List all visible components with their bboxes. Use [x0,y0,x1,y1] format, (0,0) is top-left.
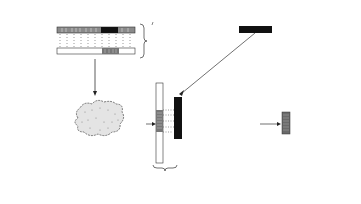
natural-hybrid-bonds [60,34,130,47]
synthetic-hybrid-brace [153,165,177,171]
diagram-canvas [0,0,361,204]
complementary-copy [282,112,290,134]
tumor-dna-strip [57,27,135,33]
labeled-mrna-strip [57,48,135,54]
synthetic-mrna-strip [156,83,163,163]
arrow-isolated-mrna [146,122,156,126]
arrow-rnase [260,122,281,126]
arrow-viral-dna [179,26,272,96]
tick-mark [152,22,153,25]
natural-hybrid-brace [140,24,147,58]
viral-dna-strip [174,97,182,139]
synthetic-hybrid-bonds [163,110,174,132]
arrow-to-ribosomes [93,59,97,96]
ribosomes-blob [75,100,124,135]
